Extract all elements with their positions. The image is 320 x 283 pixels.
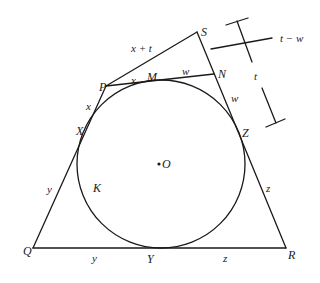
- seg-ps-label: x + t: [130, 42, 153, 54]
- label-n: N: [217, 67, 227, 81]
- bracket-t-label: t: [254, 70, 258, 82]
- label-y: Y: [147, 252, 155, 266]
- seg-qy-label: y: [91, 252, 97, 264]
- bracket-lower-line: [262, 88, 276, 123]
- side-sr: [197, 32, 286, 248]
- label-r: R: [287, 248, 296, 262]
- label-k: K: [92, 181, 102, 195]
- seg-yr-label: z: [222, 252, 228, 264]
- label-s: S: [201, 25, 207, 39]
- seg-nz-label: w: [231, 92, 239, 104]
- seg-zr-label: z: [265, 182, 271, 194]
- label-z: Z: [242, 126, 249, 140]
- seg-xq-label: y: [46, 183, 52, 195]
- label-o: O: [162, 157, 171, 171]
- seg-mn-label: w: [182, 65, 190, 77]
- label-q: Q: [23, 244, 32, 258]
- bracket-t-minus-w-label: t − w: [280, 32, 304, 44]
- seg-pm-label: x: [130, 74, 136, 86]
- side-qp: [33, 86, 106, 248]
- label-m: M: [146, 70, 158, 84]
- label-x: X: [75, 124, 84, 138]
- incircle-diagram: P S N M X Z Q R Y O K x + t x w w x y y …: [0, 0, 320, 283]
- seg-px-label: x: [85, 100, 91, 112]
- label-p: P: [98, 80, 107, 94]
- incircle-k: [77, 80, 245, 248]
- bracket-mid-marker: [211, 38, 272, 49]
- center-dot: [157, 162, 160, 165]
